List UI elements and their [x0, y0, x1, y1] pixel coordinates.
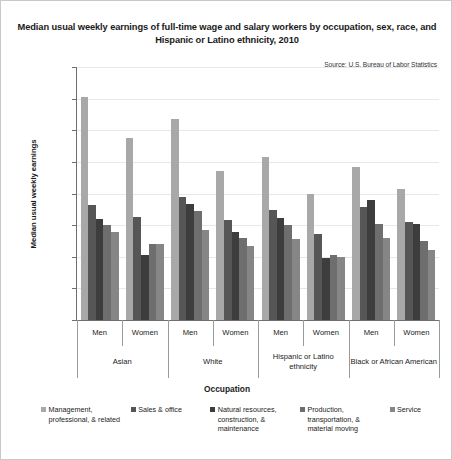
- plot-area: Median usual weekly earnings $0$200$400$…: [77, 67, 439, 320]
- axis-separator: [122, 320, 123, 346]
- bar: [171, 119, 179, 320]
- bar-group: [213, 67, 258, 320]
- bar: [314, 234, 322, 320]
- legend-swatch-icon: [210, 407, 215, 412]
- legend-label: Production, transportation, & material m…: [307, 405, 379, 434]
- bar-group: [394, 67, 439, 320]
- axis-separator: [168, 320, 169, 346]
- bar: [111, 232, 119, 320]
- legend-swatch-icon: [131, 407, 136, 412]
- bar: [247, 246, 255, 320]
- bar: [330, 255, 338, 320]
- y-axis-tick: [72, 257, 76, 258]
- bar: [88, 205, 96, 320]
- axis-separator: [303, 320, 304, 346]
- x-axis-race-label: White: [168, 346, 259, 378]
- bar: [307, 194, 315, 321]
- legend-item[interactable]: Natural resources, construction, & maint…: [210, 405, 290, 434]
- x-axis-sex-label: Women: [303, 320, 348, 346]
- bar: [216, 171, 224, 320]
- legend-swatch-icon: [300, 407, 305, 412]
- bar-group: [122, 67, 167, 320]
- bar: [277, 218, 285, 320]
- bar: [96, 219, 104, 320]
- legend-label: Natural resources, construction, & maint…: [218, 405, 290, 434]
- bar: [239, 238, 247, 320]
- axis-separator: [349, 346, 350, 378]
- legend-item[interactable]: Sales & office: [131, 405, 201, 415]
- axis-separator: [258, 320, 259, 346]
- bar: [202, 230, 210, 320]
- y-axis-tick: [72, 162, 76, 163]
- bar: [232, 232, 240, 320]
- y-axis-tick: [72, 320, 76, 321]
- bar: [397, 189, 405, 320]
- axis-separator: [439, 346, 440, 378]
- bar: [269, 210, 277, 320]
- axis-separator: [77, 346, 78, 378]
- x-axis-sex-label: Women: [394, 320, 439, 346]
- x-axis-sex-label: Men: [168, 320, 213, 346]
- bar: [337, 257, 345, 320]
- axis-separator: [168, 346, 169, 378]
- x-axis-sex-label: Women: [213, 320, 258, 346]
- bar: [179, 197, 187, 320]
- bar-group: [168, 67, 213, 320]
- bar: [413, 224, 421, 320]
- bar-group: [258, 67, 303, 320]
- legend-label: Service: [397, 405, 441, 415]
- bar: [360, 207, 368, 320]
- bar: [262, 157, 270, 320]
- axis-separator: [439, 320, 440, 346]
- bar-group: [303, 67, 348, 320]
- category-band-race: AsianWhiteHispanic or Latino ethnicityBl…: [77, 346, 439, 378]
- bar: [428, 250, 436, 320]
- legend-item[interactable]: Service: [390, 405, 442, 415]
- axis-separator: [77, 320, 78, 346]
- legend-item[interactable]: Management, professional, & related: [41, 405, 121, 424]
- y-axis-tick: [72, 225, 76, 226]
- bar: [352, 167, 360, 320]
- legend-swatch-icon: [390, 407, 395, 412]
- x-axis-sex-label: Men: [258, 320, 303, 346]
- x-axis-race-label: Hispanic or Latino ethnicity: [258, 346, 349, 378]
- bar: [284, 225, 292, 320]
- chart-figure: Median usual weekly earnings of full-tim…: [0, 0, 452, 460]
- chart-title: Median usual weekly earnings of full-tim…: [17, 21, 437, 47]
- bar: [194, 211, 202, 320]
- y-axis-tick: [72, 130, 76, 131]
- x-axis-sex-label: Men: [77, 320, 122, 346]
- bar: [126, 138, 134, 320]
- y-axis-tick: [72, 194, 76, 195]
- bar: [292, 239, 300, 320]
- bar-group: [349, 67, 394, 320]
- bar: [375, 224, 383, 320]
- x-axis-title: Occupation: [1, 384, 452, 394]
- x-axis-race-label: Asian: [77, 346, 168, 378]
- bar: [367, 200, 375, 320]
- bar: [405, 222, 413, 320]
- bar: [103, 225, 111, 320]
- bar-group: [77, 67, 122, 320]
- legend-item[interactable]: Production, transportation, & material m…: [300, 405, 380, 434]
- legend-label: Management, professional, & related: [49, 405, 121, 424]
- bar: [133, 217, 141, 320]
- legend-label: Sales & office: [138, 405, 200, 415]
- category-band-sex: MenWomenMenWomenMenWomenMenWomen: [77, 320, 439, 346]
- y-axis-title: Median usual weekly earnings: [29, 139, 38, 248]
- bar: [81, 97, 89, 320]
- chart-legend: Management, professional, & relatedSales…: [41, 405, 441, 434]
- bar: [186, 204, 194, 320]
- axis-separator: [349, 320, 350, 346]
- bar: [420, 241, 428, 320]
- x-axis-race-label: Black or African American: [349, 346, 440, 378]
- legend-swatch-icon: [41, 407, 46, 412]
- axis-separator: [258, 346, 259, 378]
- y-axis-tick: [72, 99, 76, 100]
- bar: [322, 258, 330, 320]
- bar: [149, 244, 157, 320]
- bar: [141, 255, 149, 320]
- bar: [224, 220, 232, 320]
- y-axis-tick: [72, 288, 76, 289]
- x-axis-sex-label: Women: [122, 320, 167, 346]
